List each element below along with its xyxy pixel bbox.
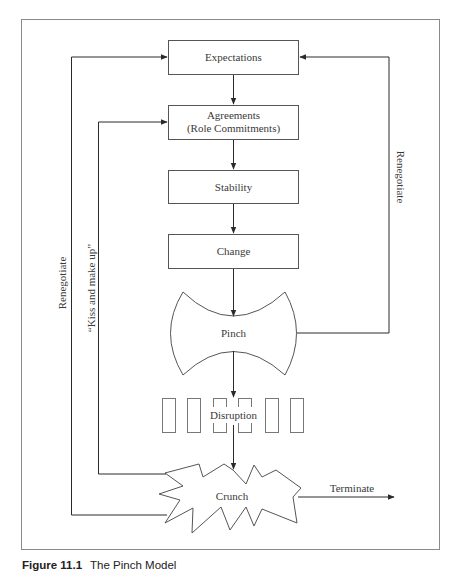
figure-caption-title: The Pinch Model: [90, 559, 176, 571]
node-stability-label: Stability: [215, 181, 253, 193]
edge-label-renegotiate-right: Renegotiate: [395, 151, 407, 204]
node-crunch: Crunch: [159, 464, 301, 533]
edge-label-renegotiate-left: Renegotiate: [56, 257, 68, 310]
node-agreements: Agreements (Role Commitments): [169, 106, 299, 140]
edge-label-terminate: Terminate: [330, 482, 375, 494]
arrow-renegotiate-right: [297, 57, 389, 333]
node-change: Change: [169, 235, 299, 269]
arrow-kiss-and-make-up: [99, 122, 168, 474]
node-agreements-label: Agreements: [207, 109, 260, 121]
node-disruption-label: Disruption: [210, 409, 258, 421]
edge-label-kiss-and-make-up: “Kiss and make up”: [85, 244, 97, 332]
node-pinch-label: Pinch: [221, 327, 247, 339]
figure-caption: Figure 11.1The Pinch Model: [22, 559, 176, 571]
node-expectations-label: Expectations: [205, 51, 262, 63]
node-crunch-label: Crunch: [216, 490, 249, 502]
node-agreements-sublabel: (Role Commitments): [187, 122, 281, 135]
node-expectations: Expectations: [169, 41, 299, 75]
node-change-label: Change: [217, 245, 251, 257]
figure-caption-number: Figure 11.1: [22, 559, 82, 571]
node-stability: Stability: [169, 171, 299, 204]
